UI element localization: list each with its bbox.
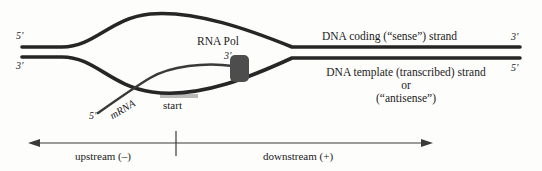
right-five-prime-label: 5': [511, 62, 519, 74]
coding-strand-label: DNA coding (“sense”) strand: [322, 30, 457, 43]
upstream-label: upstream (–): [75, 150, 131, 163]
axis-arrowhead-left: [28, 139, 40, 147]
start-site-label: start: [163, 99, 182, 112]
template-strand-label: DNA template (transcribed) strand or (“a…: [322, 66, 490, 106]
template-strand-line3: (“antisense”): [322, 92, 490, 105]
transcription-diagram: 5' 3' 3' 5' RNA Pol 3' mRNA 5' start DNA…: [0, 0, 542, 171]
rna-pol-label: RNA Pol: [197, 35, 239, 48]
right-three-prime-label: 3': [511, 31, 519, 43]
mrna-five-prime-label: 5': [89, 110, 97, 122]
left-five-prime-label: 5': [16, 30, 24, 42]
left-three-prime-label: 3': [16, 60, 24, 72]
rna-polymerase-body: [230, 55, 249, 82]
downstream-label: downstream (+): [263, 150, 333, 163]
rna-three-prime-label: 3': [224, 50, 232, 62]
template-strand-line2: or: [322, 79, 490, 92]
axis-arrowhead-right: [421, 139, 433, 147]
template-strand-line1: DNA template (transcribed) strand: [322, 66, 490, 79]
